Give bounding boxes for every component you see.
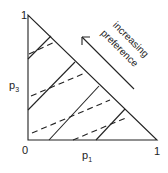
triangle-boundary (28, 15, 157, 140)
y-axis-label: p3 (9, 80, 19, 91)
dashed-line (73, 117, 128, 140)
dashed-iso-lines (29, 42, 128, 140)
dashed-line (32, 100, 110, 133)
solid-line (28, 36, 51, 59)
dashed-line (31, 73, 85, 96)
dashed-line (29, 42, 55, 54)
origin-label: 0 (22, 145, 28, 156)
x-max-label: 1 (154, 146, 160, 157)
x-axis-label: p1 (82, 150, 92, 161)
y-max-label: 1 (21, 10, 27, 21)
solid-line (28, 62, 75, 110)
